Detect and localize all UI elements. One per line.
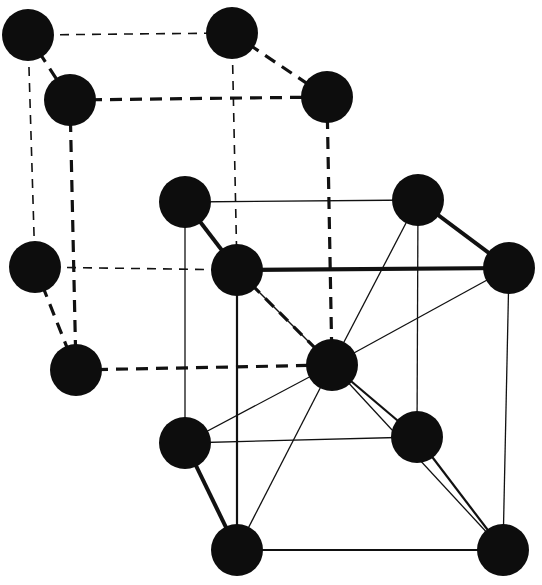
bond-b4-b8: [503, 268, 509, 550]
bond-lines: [28, 33, 509, 550]
atom-a1: [2, 9, 54, 61]
bond-a1-a2: [28, 33, 232, 35]
atom-b5: [159, 417, 211, 469]
bond-a3-a6: [70, 100, 76, 370]
bond-a4-c: [327, 97, 332, 365]
bond-c-b7: [237, 365, 332, 550]
atom-b8: [477, 524, 529, 576]
bond-a3-a4: [70, 97, 327, 100]
atom-b3: [392, 174, 444, 226]
atom-a2: [206, 7, 258, 59]
atom-b2: [211, 244, 263, 296]
bond-b2-b4: [237, 268, 509, 270]
atom-b7: [211, 524, 263, 576]
bond-a2-b2: [232, 33, 237, 270]
bond-a1-a5: [28, 35, 35, 267]
bond-a5-b2: [35, 267, 237, 270]
bond-b5-b6: [185, 437, 417, 443]
atom-a4: [301, 71, 353, 123]
atom-a5: [9, 241, 61, 293]
bond-b1-b3: [185, 200, 418, 202]
atom-b4: [483, 242, 535, 294]
atoms: [2, 7, 535, 576]
atom-a6: [50, 344, 102, 396]
atom-c: [306, 339, 358, 391]
bond-c-b3: [332, 200, 418, 365]
atom-b6: [391, 411, 443, 463]
bond-a6-c: [76, 365, 332, 370]
crystal-lattice-diagram: [0, 0, 542, 585]
atom-a3: [44, 74, 96, 126]
atom-b1: [159, 176, 211, 228]
bond-c-b4: [332, 268, 509, 365]
